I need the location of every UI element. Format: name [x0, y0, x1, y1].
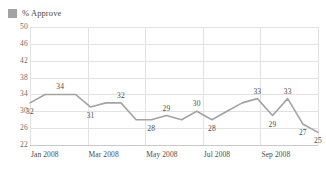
data-point-label: 34	[56, 83, 64, 91]
approval-rating-line-chart: % Approve 5046423834302622 Jan 2008Mar 2…	[0, 0, 326, 170]
series-approve-line	[0, 0, 326, 170]
data-point-label: 28	[208, 125, 216, 133]
data-point-label: 30	[193, 100, 201, 108]
data-point-label: 32	[26, 108, 34, 116]
data-point-label: 29	[162, 105, 170, 113]
data-point-label: 25	[314, 137, 322, 145]
data-point-label: 28	[147, 125, 155, 133]
data-point-label: 32	[117, 92, 125, 100]
data-point-label: 31	[87, 112, 95, 120]
data-point-label: 27	[299, 129, 307, 137]
data-point-label: 33	[284, 88, 292, 96]
data-point-label: 29	[269, 121, 277, 129]
data-point-label: 33	[253, 88, 261, 96]
